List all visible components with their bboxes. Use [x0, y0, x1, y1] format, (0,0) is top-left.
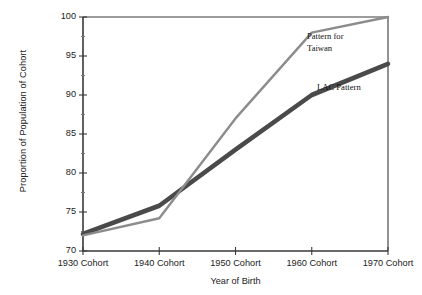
x-axis-tick-labels: 1930 Cohort1940 Cohort1950 Cohort1960 Co…: [0, 258, 422, 274]
series-label-lac: LAC Pattern: [317, 82, 361, 94]
x-tick-label: 1960 Cohort: [286, 258, 337, 268]
y-tick-label: 95: [46, 50, 76, 60]
x-tick-label: 1950 Cohort: [210, 258, 261, 268]
series-label-lac-line1: LAC Pattern: [317, 82, 361, 94]
y-tick-label: 80: [46, 167, 76, 177]
series-label-taiwan: Pattern for Taiwan: [307, 31, 344, 54]
series-label-taiwan-line1: Pattern for: [307, 31, 344, 43]
y-tick-label: 75: [46, 206, 76, 216]
y-tick-label: 70: [46, 245, 76, 255]
x-tick-label: 1970 Cohort: [363, 258, 414, 268]
y-tick-label: 100: [46, 11, 76, 21]
x-axis-title: Year of Birth: [83, 276, 388, 286]
series-label-taiwan-line2: Taiwan: [307, 43, 344, 55]
x-tick-label: 1930 Cohort: [58, 258, 109, 268]
y-tick-label: 85: [46, 128, 76, 138]
y-axis-title: Proportion of Population of Cohort: [18, 21, 28, 221]
y-axis-tick-labels: 707580859095100: [46, 0, 76, 295]
y-tick-label: 90: [46, 89, 76, 99]
chart-figure: Proportion of Population of Cohort Year …: [0, 0, 422, 295]
x-tick-label: 1940 Cohort: [134, 258, 185, 268]
